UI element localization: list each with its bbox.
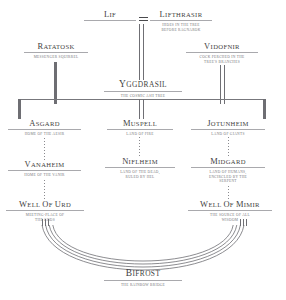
connector-muspell-to-niflheim [139,137,140,157]
node-well-of-urd-title: WELL OF URD [6,200,84,209]
node-well-of-mimir-subtitle: THE SOURCE OF ALL WISDOM [188,213,272,223]
node-well-of-mimir-title: WELL OF MIMIR [188,200,272,209]
node-yggdrasil-title: YGGDRASIL [104,80,182,90]
node-jotunheim-rule [191,129,265,130]
node-yggdrasil: YGGDRASIL THE COSMIC ASH TREE [104,80,182,99]
node-midgard-rule [191,167,265,168]
node-lifthrasir: LIFTHRASIR HIDES IN THE TREE BEFORE RAGN… [150,10,212,32]
node-lifthrasir-title: LIFTHRASIR [150,10,212,19]
node-well-of-urd-rule [6,210,84,211]
node-midgard: MIDGARD LAND OF HUMANS, ENCIRCLED BY THE… [191,157,265,184]
node-vidofnir-title: VIDOFNIR [186,42,258,51]
node-ratatosk-rule [24,52,88,53]
node-bifrost-subtitle: THE RAINBOW BRIDGE [104,283,182,288]
node-yggdrasil-rule [104,91,182,92]
node-vanaheim-title: VANAHEIM [8,160,81,169]
node-vanaheim: VANAHEIM HOME OF THE VANIR [8,160,81,178]
node-lif-title: LIF [84,10,136,19]
connector-asgard-to-vanaheim [44,138,45,161]
node-niflheim-title: NIFLHEIM [105,157,175,166]
norse-cosmology-diagram: LIF LIFTHRASIR HIDES IN THE TREE BEFORE … [0,0,286,300]
node-ratatosk-subtitle: MESSENGER SQUIRREL [24,55,88,60]
node-vidofnir: VIDOFNIR COCK PERCHED IN THE TREE'S BRAN… [186,42,258,64]
node-vanaheim-rule [8,170,81,171]
node-well-of-mimir-rule [188,210,272,211]
node-asgard-rule [8,129,81,130]
connector-yggdrasil-to-muspell [139,99,144,119]
node-yggdrasil-subtitle: THE COSMIC ASH TREE [104,94,182,99]
node-midgard-title: MIDGARD [191,157,265,166]
node-muspell-title: MUSPELL [107,119,173,128]
connector-well-of-mimir-to-bifrost [240,219,247,226]
marriage-equals-icon [139,17,148,21]
node-bifrost-rule [104,280,182,281]
node-well-of-mimir: WELL OF MIMIR THE SOURCE OF ALL WISDOM [188,200,272,222]
node-muspell-subtitle: LAND OF FIRE [107,132,173,137]
node-asgard-title: ASGARD [8,119,81,128]
connector-vanaheim-to-well-of-urd [44,180,45,201]
connector-lifthrasir-to-yggdrasil [139,24,144,80]
node-jotunheim-title: JOTUNHEIM [191,119,265,128]
node-asgard: ASGARD HOME OF THE AESIR [8,119,81,137]
node-jotunheim-subtitle: LAND OF GIANTS [191,132,265,137]
node-jotunheim: JOTUNHEIM LAND OF GIANTS [191,119,265,137]
node-bifrost: BIFROST THE RAINBOW BRIDGE [104,269,182,288]
node-vidofnir-subtitle: COCK PERCHED IN THE TREE'S BRANCHES [186,55,258,65]
node-vanaheim-subtitle: HOME OF THE VANIR [8,173,81,178]
node-bifrost-title: BIFROST [104,269,182,279]
node-niflheim-rule [105,167,175,168]
node-midgard-subtitle: LAND OF HUMANS, ENCIRCLED BY THE SERPENT [191,170,265,184]
node-niflheim: NIFLHEIM LAND OF THE DEAD, RULED BY HEL [105,157,175,179]
node-asgard-subtitle: HOME OF THE AESIR [8,132,81,137]
node-niflheim-subtitle: LAND OF THE DEAD, RULED BY HEL [105,170,175,180]
node-ratatosk-title: RATATOSK [24,42,88,51]
node-vidofnir-rule [186,52,258,53]
node-lifthrasir-subtitle: HIDES IN THE TREE BEFORE RAGNAROK [150,23,212,33]
connector-ratatosk-to-yggdrasil [54,62,57,104]
node-lifthrasir-rule [150,20,212,21]
node-muspell-rule [107,129,173,130]
node-lif: LIF [84,10,136,23]
node-ratatosk: RATATOSK MESSENGER SQUIRREL [24,42,88,60]
connector-well-of-urd-to-bifrost [42,219,49,226]
connector-jotunheim-to-midgard [228,137,229,157]
node-muspell: MUSPELL LAND OF FIRE [107,119,173,137]
node-lif-rule [84,20,136,21]
